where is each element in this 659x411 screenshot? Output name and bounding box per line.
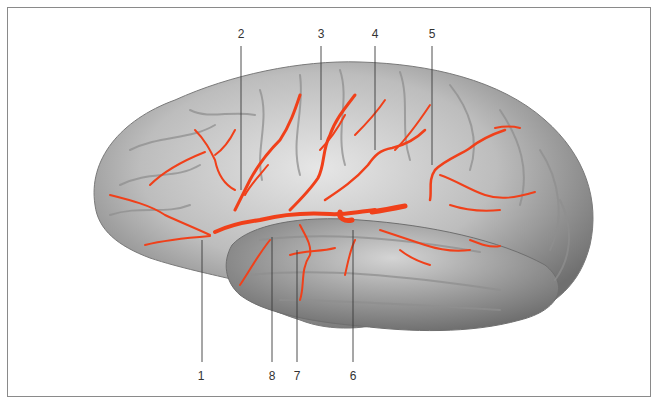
brain-illustration: [0, 0, 659, 411]
label-3: 3: [318, 28, 325, 40]
label-7: 7: [294, 370, 301, 382]
label-2: 2: [238, 28, 245, 40]
label-1: 1: [198, 370, 205, 382]
label-4: 4: [372, 28, 379, 40]
label-6: 6: [350, 370, 357, 382]
label-5: 5: [429, 28, 436, 40]
label-8: 8: [269, 370, 276, 382]
